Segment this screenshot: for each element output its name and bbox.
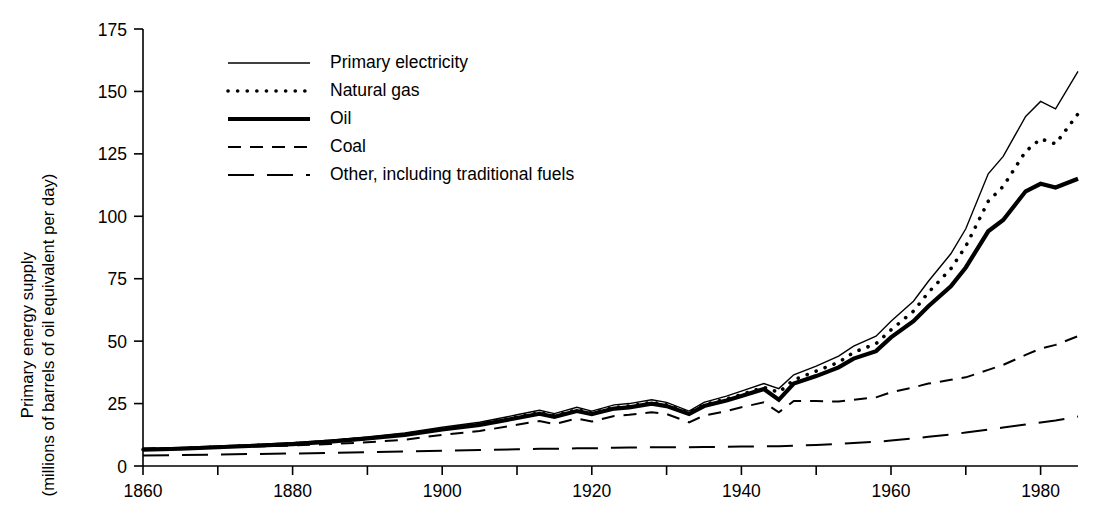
x-axis-tick-label: 1900 [423, 481, 462, 501]
y-axis-tick-label: 100 [98, 207, 127, 227]
legend-label: Primary electricity [330, 52, 468, 72]
chart-canvas: 0255075100125150175 18601880190019201940… [0, 0, 1095, 530]
series-line [143, 417, 1078, 456]
y-axis-tick-label: 150 [98, 82, 127, 102]
x-axis-tick-group: 1860188019001920194019601980 [124, 466, 1061, 501]
x-axis-tick-label: 1960 [872, 481, 911, 501]
legend-label: Coal [330, 136, 366, 156]
legend-label: Oil [330, 108, 351, 128]
y-axis-tick-label: 50 [108, 332, 128, 352]
data-series-group [143, 71, 1078, 455]
x-axis-tick-label: 1940 [722, 481, 761, 501]
series-line [143, 336, 1078, 448]
x-axis-tick-label: 1980 [1021, 481, 1060, 501]
y-axis-tick-label: 0 [117, 457, 127, 477]
chart-legend: Primary electricityNatural gasOilCoalOth… [228, 52, 574, 184]
x-axis-tick-label: 1880 [273, 481, 312, 501]
legend-label: Other, including traditional fuels [330, 164, 574, 184]
y-axis-tick-label: 125 [98, 144, 127, 164]
series-line [143, 179, 1078, 450]
series-line [143, 114, 1078, 450]
legend-label: Natural gas [330, 80, 420, 100]
y-axis-tick-group: 0255075100125150175 [98, 20, 143, 477]
x-axis-tick-label: 1860 [124, 481, 163, 501]
y-axis-tick-label: 25 [108, 394, 127, 414]
y-axis-tick-label: 75 [108, 269, 127, 289]
energy-supply-chart-figure: Primary energy supply (millions of barre… [0, 0, 1095, 530]
x-axis-tick-label: 1920 [572, 481, 611, 501]
y-axis-tick-label: 175 [98, 20, 127, 40]
series-line [143, 71, 1078, 448]
